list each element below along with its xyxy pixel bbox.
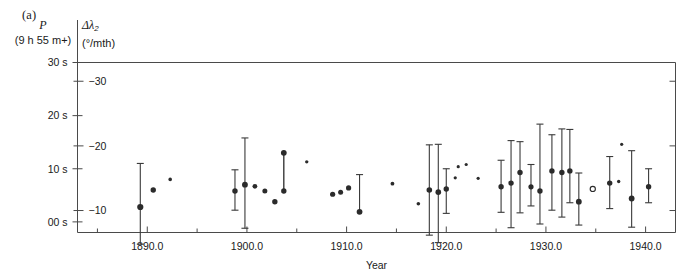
- data-point: [253, 184, 258, 189]
- y-tick-label-left: 10 s: [48, 163, 68, 175]
- data-point: [576, 199, 582, 205]
- data-point: [330, 192, 335, 197]
- data-point: [262, 189, 267, 194]
- data-point-open: [590, 186, 595, 191]
- data-point: [620, 143, 623, 146]
- data-point: [607, 180, 612, 185]
- data-point: [357, 209, 363, 215]
- y-tick-label-left: 30 s: [48, 56, 68, 68]
- data-point: [457, 165, 460, 168]
- y-tick-label-right: −20: [89, 140, 107, 152]
- plot-border: [78, 63, 676, 233]
- data-point: [465, 163, 468, 166]
- scatter-plot-canvas: 1890.01900.01910.01920.01930.01940.0 00 …: [0, 0, 695, 274]
- figure-panel-a: (a) P (9 h 55 m+) Δλ2 (°/mth) 1890.01900…: [0, 0, 695, 274]
- data-point: [417, 202, 421, 206]
- data-point: [242, 182, 248, 188]
- x-tick-label: 1900.0: [231, 240, 263, 252]
- data-point: [537, 188, 542, 193]
- data-point: [338, 190, 343, 195]
- y-tick-label-right: −30: [89, 75, 107, 87]
- data-point: [137, 204, 143, 210]
- data-point: [151, 187, 156, 192]
- data-point: [168, 178, 172, 182]
- data-point: [435, 189, 441, 195]
- data-point: [498, 184, 503, 189]
- data-point: [232, 188, 237, 193]
- x-tick-label: 1910.0: [331, 240, 363, 252]
- data-point: [629, 196, 635, 202]
- data-point: [272, 199, 277, 204]
- x-axis-title: Year: [366, 259, 388, 271]
- data-point: [559, 170, 564, 175]
- data-point: [477, 177, 480, 180]
- data-point: [346, 185, 351, 190]
- x-tick-label: 1930.0: [530, 240, 562, 252]
- data-point: [444, 186, 449, 191]
- data-point: [508, 180, 513, 185]
- data-point: [528, 184, 533, 189]
- x-axis-ticks: 1890.01900.01910.01920.01930.01940.0: [97, 227, 661, 252]
- x-tick-label: 1920.0: [430, 240, 462, 252]
- x-tick-label: 1940.0: [630, 240, 662, 252]
- data-point: [305, 160, 308, 163]
- x-tick-label: 1890.0: [131, 240, 163, 252]
- data-points-layer: [137, 124, 652, 244]
- data-point: [391, 182, 395, 186]
- y-tick-label-left: 20 s: [48, 109, 68, 121]
- data-point: [517, 170, 522, 175]
- y-tick-label-left: 00 s: [48, 216, 68, 228]
- y-tick-label-right: −10: [89, 204, 107, 216]
- data-point: [454, 176, 457, 179]
- data-point: [617, 180, 620, 183]
- data-point: [549, 168, 554, 173]
- data-point: [567, 168, 572, 173]
- data-point: [281, 150, 287, 156]
- data-point: [427, 187, 433, 193]
- plot-frame: [78, 20, 676, 233]
- y-axis-right-ticks: −30−20−10: [74, 75, 676, 216]
- data-point: [646, 184, 651, 189]
